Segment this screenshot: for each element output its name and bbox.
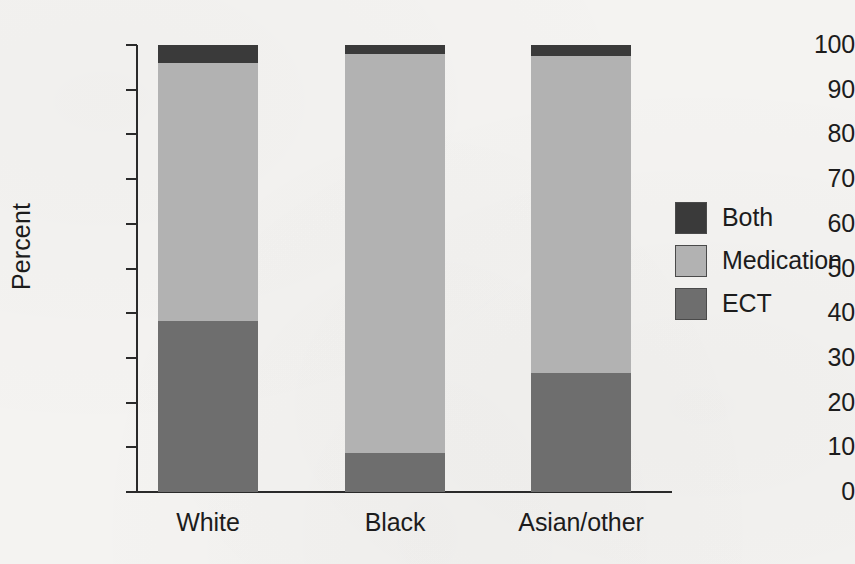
legend-item-both: Both <box>675 196 842 239</box>
bar-segment-both <box>345 45 445 54</box>
y-axis-title: Percent <box>7 203 36 290</box>
bar-white <box>158 45 258 492</box>
x-axis-label-asian-other: Asian/other <box>471 508 691 537</box>
y-axis-tick-label: 0 <box>797 479 855 504</box>
bar-segment-ect <box>158 321 258 492</box>
y-axis-tick-label: 70 <box>797 166 855 191</box>
y-axis-tick-label: 100 <box>797 32 855 57</box>
bar-segment-both <box>158 45 258 63</box>
legend-swatch-medication <box>675 245 707 277</box>
y-axis-tick-label: 20 <box>797 390 855 415</box>
bar-black <box>345 45 445 492</box>
y-axis-tick-label: 10 <box>797 434 855 459</box>
y-axis-tick-label: 90 <box>797 77 855 102</box>
bar-segment-medication <box>531 56 631 373</box>
y-axis-tick-label: 80 <box>797 121 855 146</box>
legend-label: Medication <box>722 246 842 275</box>
plot-area <box>136 45 660 492</box>
bar-segment-medication <box>158 63 258 321</box>
legend-swatch-both <box>675 202 707 234</box>
bar-asian-other <box>531 45 631 492</box>
chart-figure: Percent 0102030405060708090100 WhiteBlac… <box>0 0 855 564</box>
y-axis-tick-label: 30 <box>797 345 855 370</box>
chart-legend: BothMedicationECT <box>675 196 842 325</box>
legend-label: ECT <box>722 289 772 318</box>
legend-swatch-ect <box>675 288 707 320</box>
legend-item-ect: ECT <box>675 282 842 325</box>
legend-label: Both <box>722 203 773 232</box>
bar-segment-both <box>531 45 631 56</box>
bar-segment-ect <box>531 373 631 492</box>
legend-item-medication: Medication <box>675 239 842 282</box>
bar-segment-medication <box>345 54 445 453</box>
bar-segment-ect <box>345 453 445 492</box>
